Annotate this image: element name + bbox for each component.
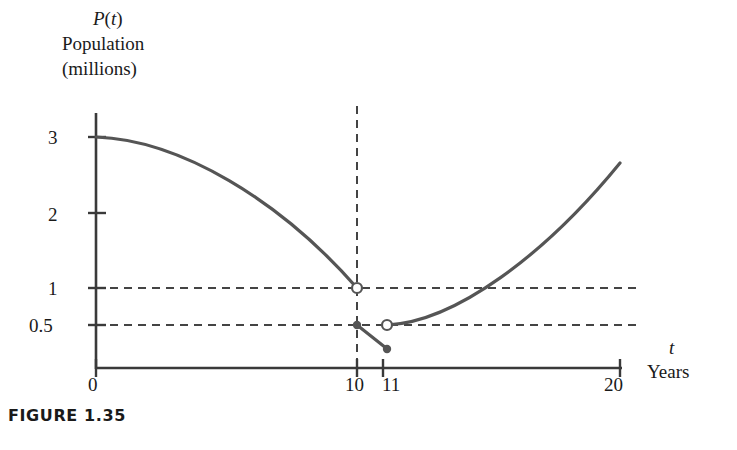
filled-dot-marker-11-028 bbox=[383, 345, 391, 353]
open-circle-marker-10-1 bbox=[352, 283, 362, 293]
x-tick-label-0: 0 bbox=[88, 375, 98, 394]
curve-decreasing-branch bbox=[96, 137, 357, 288]
curve-increasing-branch bbox=[387, 163, 620, 325]
figure-caption: FIGURE 1.35 bbox=[8, 408, 126, 424]
x-tick-label-20: 20 bbox=[604, 375, 623, 394]
open-circle-marker-11-05 bbox=[382, 320, 392, 330]
y-axis-symbol-line: P(t) bbox=[62, 6, 144, 31]
y-tick-label-3: 3 bbox=[48, 128, 58, 147]
x-tick-label-11: 11 bbox=[382, 375, 400, 394]
y-axis-symbol-paren-close: ) bbox=[116, 8, 122, 29]
x-axis-title-block: t Years bbox=[647, 336, 689, 384]
y-tick-label-1: 1 bbox=[48, 279, 58, 298]
y-axis-label-population: Population bbox=[62, 31, 144, 56]
figure-container: P(t) Population (millions) 3 2 1 0.5 0 1… bbox=[0, 0, 737, 450]
y-tick-label-05: 0.5 bbox=[29, 316, 53, 335]
filled-dot-marker-10-05 bbox=[353, 321, 361, 329]
y-axis-symbol: P bbox=[93, 8, 105, 29]
y-tick-label-2: 2 bbox=[48, 205, 58, 224]
segment-short-decreasing bbox=[357, 325, 386, 348]
x-tick-label-10: 10 bbox=[345, 375, 364, 394]
x-axis-symbol: t bbox=[647, 336, 689, 360]
y-axis-label-units: (millions) bbox=[62, 56, 144, 81]
y-axis-title-block: P(t) Population (millions) bbox=[62, 6, 144, 81]
x-axis-label-years: Years bbox=[647, 360, 689, 384]
